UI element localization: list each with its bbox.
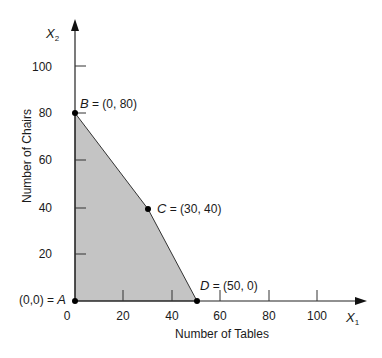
x-tick-label: 0	[64, 309, 71, 323]
y-tick-label: 100	[32, 60, 52, 74]
point-a	[72, 298, 78, 304]
point-c	[145, 206, 151, 212]
y-axis-title: Number of Chairs	[20, 109, 34, 203]
x-axis-variable-label: X1	[345, 310, 360, 327]
x-tick-label: 40	[165, 309, 179, 323]
x-axis-title: Number of Tables	[175, 327, 269, 341]
point-b-label: B = (0, 80)	[80, 96, 137, 111]
x-axis-arrow-icon	[355, 297, 367, 305]
point-b	[72, 110, 78, 116]
y-axis-arrow-icon	[71, 19, 79, 31]
point-d	[194, 298, 200, 304]
y-axis-variable-label: X2	[45, 26, 60, 43]
y-tick-label: 20	[39, 247, 53, 261]
chart: 20 40 60 80 100 0 20 40 60 80 100 X2 X1 …	[0, 0, 382, 358]
x-tick-label: 60	[213, 309, 227, 323]
x-tick-label: 80	[262, 309, 276, 323]
point-a-label: (0,0) = A	[19, 292, 66, 307]
x-tick-label: 100	[307, 309, 327, 323]
point-c-label: C = (30, 40)	[157, 201, 221, 216]
y-tick-label: 80	[39, 106, 53, 120]
x-tick-label: 20	[116, 309, 130, 323]
y-tick-label: 60	[39, 153, 53, 167]
point-d-label: D = (50, 0)	[200, 278, 258, 293]
y-tick-label: 40	[39, 201, 53, 215]
